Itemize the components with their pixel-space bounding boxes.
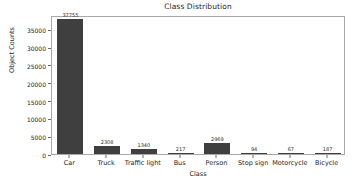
bar-value-label: 37755	[62, 13, 78, 18]
bar-group[interactable]: 37755	[52, 17, 89, 154]
bar[interactable]	[131, 149, 157, 154]
bar[interactable]	[278, 153, 304, 154]
y-tick-label: 5000	[31, 134, 46, 141]
bar-value-label: 217	[176, 147, 186, 152]
bar[interactable]	[241, 153, 267, 154]
y-tick-label: 15000	[27, 98, 46, 105]
y-tick-label: 35000	[27, 27, 46, 34]
x-tick-label: Truck	[98, 159, 115, 167]
bar-value-label: 187	[323, 147, 333, 152]
bar-group[interactable]: 187	[309, 17, 346, 154]
x-tick-mark	[289, 155, 290, 158]
x-tick-mark	[179, 155, 180, 158]
x-tick-mark	[216, 155, 217, 158]
bar-group[interactable]: 2308	[89, 17, 126, 154]
bar[interactable]	[315, 153, 341, 154]
x-tick-label: Car	[64, 159, 75, 167]
x-tick-label: Motorcycle	[272, 159, 307, 167]
x-tick-label: Person	[205, 159, 227, 167]
bar-value-label: 2308	[101, 140, 114, 145]
x-tick-mark	[142, 155, 143, 158]
figure-canvas: Class Distribution Object Counts 0500010…	[0, 0, 357, 188]
bar-value-label: 67	[288, 147, 294, 152]
x-tick-label: Stop sign	[238, 159, 268, 167]
x-axis-label: Class	[51, 170, 345, 178]
bar-value-label: 1340	[138, 143, 151, 148]
x-tick-mark	[106, 155, 107, 158]
y-tick-label: 0	[42, 152, 46, 159]
x-tick-label: Bus	[174, 159, 186, 167]
x-tick-label: Traffic light	[125, 159, 161, 167]
x-axis-ticks: CarTruckTraffic lightBusPersonStop signM…	[51, 155, 345, 169]
bar-value-label: 94	[251, 147, 257, 152]
y-tick-label: 30000	[27, 45, 46, 52]
bar-group[interactable]: 217	[162, 17, 199, 154]
bar[interactable]	[204, 143, 230, 154]
chart-title: Class Distribution	[51, 2, 345, 11]
y-tick-label: 10000	[27, 116, 46, 123]
plot-area: 377552308134021729699467187	[51, 16, 345, 155]
y-tick-label: 25000	[27, 62, 46, 69]
bar[interactable]	[94, 146, 120, 154]
x-tick-label: Bicycle	[315, 159, 338, 167]
y-tick-label: 20000	[27, 80, 46, 87]
x-tick-mark	[253, 155, 254, 158]
bar-group[interactable]: 2969	[199, 17, 236, 154]
x-tick-mark	[69, 155, 70, 158]
bar-group[interactable]: 94	[236, 17, 273, 154]
bar-group[interactable]: 1340	[126, 17, 163, 154]
bar[interactable]	[57, 19, 83, 154]
y-axis-ticks: 05000100001500020000250003000035000	[0, 16, 51, 155]
bar[interactable]	[168, 153, 194, 154]
x-tick-mark	[326, 155, 327, 158]
bar-value-label: 2969	[211, 137, 224, 142]
bar-group[interactable]: 67	[273, 17, 310, 154]
bars-layer: 377552308134021729699467187	[52, 17, 344, 154]
